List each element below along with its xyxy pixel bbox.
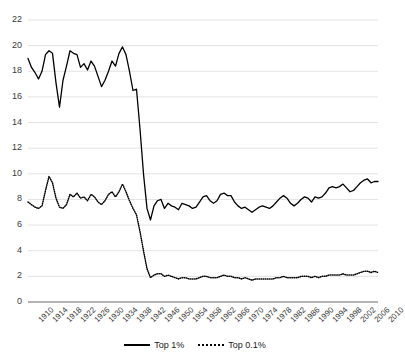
legend-item-top-1[interactable]: Top 1% [124, 340, 184, 350]
legend-swatch-solid-icon [124, 344, 150, 346]
legend-swatch-dotted-icon [198, 344, 224, 346]
chart-legend: Top 1% Top 0.1% [0, 340, 390, 350]
y-axis-tick-label: 12 [2, 143, 22, 152]
y-axis-tick-label: 14 [2, 118, 22, 127]
legend-label-top-0-1: Top 0.1% [228, 340, 266, 350]
y-axis-tick-label: 16 [2, 92, 22, 101]
y-axis-tick-label: 6 [2, 220, 22, 229]
legend-item-top-0-1[interactable]: Top 0.1% [198, 340, 266, 350]
y-axis-tick-label: 4 [2, 246, 22, 255]
y-axis-tick-label: 2 [2, 271, 22, 280]
gridlines [28, 20, 378, 276]
series-line-0 [28, 47, 378, 220]
y-axis-tick-label: 20 [2, 41, 22, 50]
y-axis-tick-label: 18 [2, 66, 22, 75]
y-axis-tick-label: 22 [2, 15, 22, 24]
y-axis-tick-label: 8 [2, 194, 22, 203]
legend-label-top-1: Top 1% [154, 340, 184, 350]
y-axis-tick-label: 10 [2, 169, 22, 178]
data-series [28, 47, 378, 280]
y-axis-tick-label: 0 [2, 297, 22, 306]
